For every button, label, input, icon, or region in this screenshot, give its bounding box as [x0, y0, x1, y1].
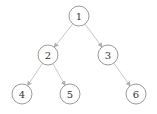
- tree-node-4: 4: [12, 84, 32, 104]
- tree-node-1: 1: [69, 6, 89, 26]
- node-label: 6: [133, 89, 139, 100]
- nodes-group: 123456: [12, 6, 146, 104]
- node-label: 3: [105, 50, 111, 61]
- tree-node-6: 6: [126, 84, 146, 104]
- tree-diagram: 123456: [0, 0, 157, 114]
- edge-3-6: [114, 63, 130, 86]
- edge-2-4: [28, 63, 43, 85]
- tree-node-2: 2: [38, 45, 58, 65]
- edge-1-2: [54, 24, 73, 47]
- edge-1-3: [85, 24, 102, 47]
- edge-2-5: [53, 64, 65, 86]
- node-label: 1: [76, 11, 82, 22]
- tree-node-3: 3: [98, 45, 118, 65]
- node-label: 2: [45, 50, 51, 61]
- tree-node-5: 5: [60, 84, 80, 104]
- node-label: 5: [67, 89, 73, 100]
- node-label: 4: [19, 89, 25, 100]
